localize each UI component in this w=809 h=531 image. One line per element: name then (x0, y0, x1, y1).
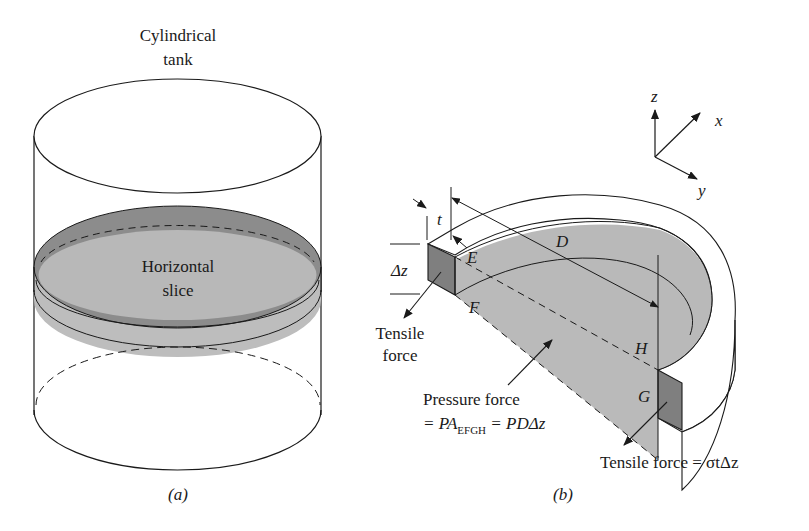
axis-triad: z x y (650, 87, 723, 200)
slice-label-line2: slice (162, 281, 193, 300)
point-e: E (466, 248, 478, 267)
height-label: Δz (390, 261, 408, 280)
tensile-left-line1: Tensile (376, 324, 425, 343)
point-f: F (468, 298, 480, 317)
tank-top-ellipse (34, 79, 321, 193)
axis-z-label: z (650, 87, 658, 106)
figure-b-half-ring-slice: z x y t D Δz (376, 87, 739, 504)
tensile-right-label: Tensile force = σtΔz (600, 453, 739, 472)
thickness-label: t (437, 210, 443, 229)
diameter-label: D (555, 232, 569, 251)
caption-b: (b) (553, 485, 573, 504)
point-h: H (634, 339, 649, 358)
point-g: G (638, 387, 650, 406)
tensile-left-line2: force (383, 346, 418, 365)
slice-label-line1: Horizontal (142, 257, 215, 276)
pressure-equation: = PAEFGH = PDΔz (423, 414, 546, 436)
tank-title-line1: Cylindrical (140, 26, 217, 45)
axis-y-label: y (696, 181, 706, 200)
tensile-left-arrow (404, 272, 441, 318)
tank-stress-diagram: Cylindrical tank Horizontal slice (a) (0, 0, 809, 531)
pressure-label-line1: Pressure force (423, 390, 520, 409)
tank-bottom-front-edge (34, 410, 321, 470)
caption-a: (a) (168, 485, 188, 504)
tank-title-line2: tank (163, 50, 193, 69)
figure-a-cylindrical-tank: Cylindrical tank Horizontal slice (a) (34, 26, 321, 504)
axis-x-label: x (714, 111, 723, 130)
